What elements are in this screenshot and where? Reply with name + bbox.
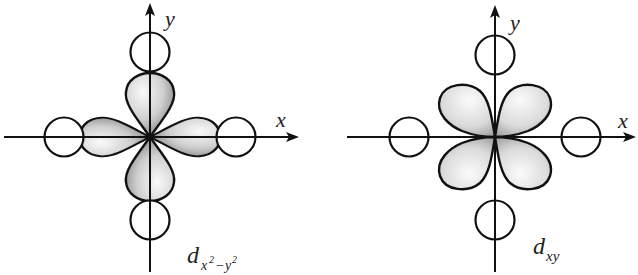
dx2-y2-label: d x 2 − y 2 bbox=[187, 242, 237, 273]
orbital-diagrams: x y d x 2 − y 2 x y bbox=[0, 0, 638, 275]
svg-text:d: d bbox=[187, 242, 200, 268]
x-axis-label: x bbox=[617, 108, 628, 133]
dxy-diagram: x y d xy bbox=[347, 5, 636, 272]
svg-text:x: x bbox=[200, 258, 208, 273]
svg-text:xy: xy bbox=[545, 248, 560, 264]
x-axis-label: x bbox=[275, 107, 286, 132]
lobe-lower-right bbox=[495, 137, 551, 189]
svg-text:y: y bbox=[223, 258, 232, 273]
svg-text:d: d bbox=[533, 233, 546, 259]
dxy-label: d xy bbox=[533, 233, 560, 264]
lobe-upper-left bbox=[439, 85, 495, 137]
lobe-lower-left bbox=[439, 137, 495, 189]
svg-text:2: 2 bbox=[232, 254, 237, 265]
dx2-y2-diagram: x y d x 2 − y 2 bbox=[4, 3, 299, 273]
y-axis-label: y bbox=[163, 6, 175, 31]
svg-text:2: 2 bbox=[209, 254, 214, 265]
svg-text:−: − bbox=[215, 258, 224, 273]
lobe-upper-right bbox=[495, 85, 551, 137]
y-axis-label: y bbox=[508, 10, 520, 35]
